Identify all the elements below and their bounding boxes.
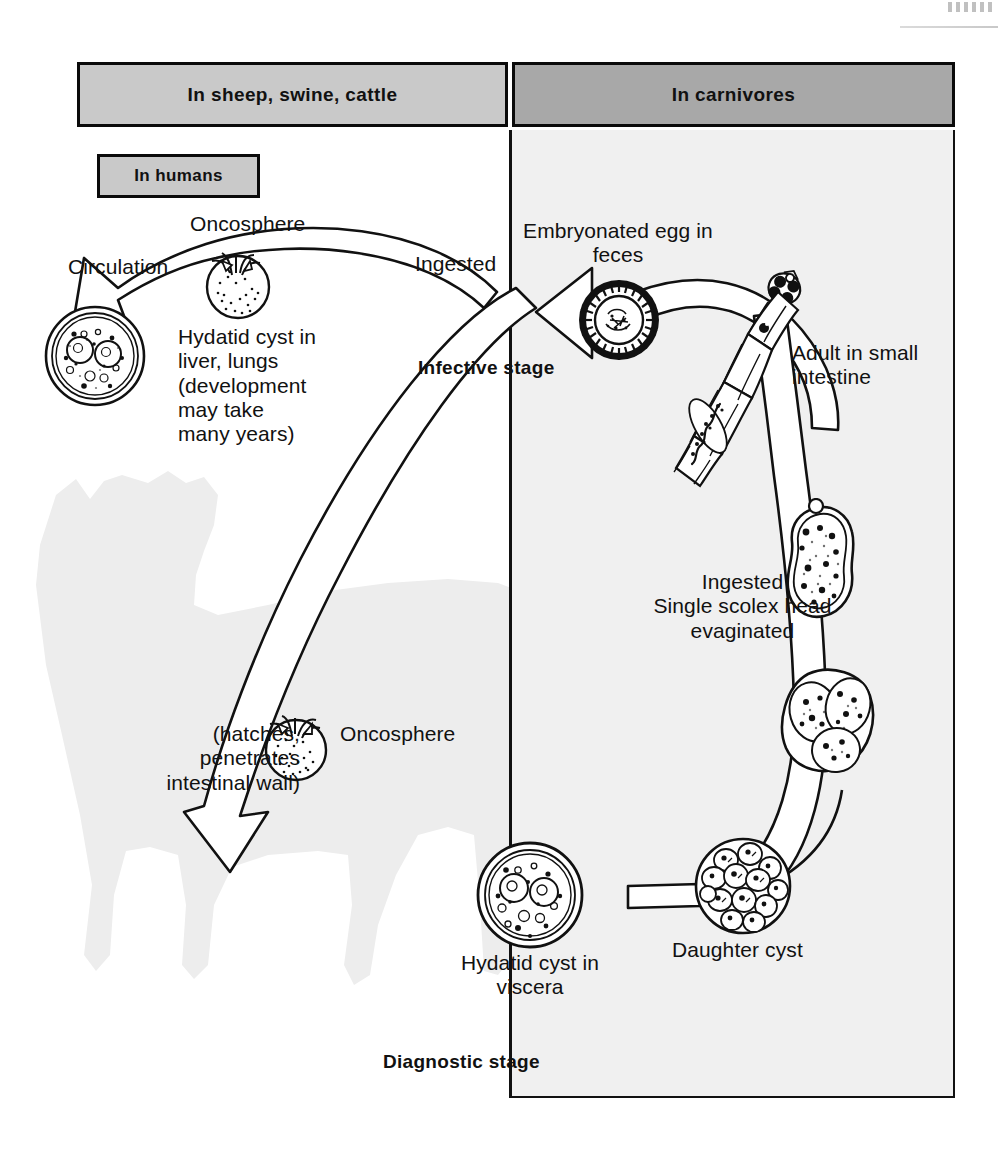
label-daughter-cyst: Daughter cyst — [672, 938, 803, 962]
label-embryonated-egg: Embryonated egg in feces — [523, 219, 713, 268]
hydatid-cyst-viscera-illustration — [472, 836, 588, 954]
label-circulation: Circulation — [68, 255, 168, 279]
header-humans-label: In humans — [134, 166, 223, 186]
figure-canvas: In sheep, swine, cattle In carnivores In… — [0, 0, 998, 1161]
label-hydatid-cyst-viscera: Hydatid cyst in viscera — [440, 951, 620, 1000]
protoscolex-capsule-2-illustration — [778, 662, 884, 780]
header-left-label: In sheep, swine, cattle — [188, 84, 398, 106]
hydatid-cyst-liver-illustration — [40, 300, 150, 412]
oncosphere-top-illustration — [200, 243, 276, 323]
label-ingested-scolex: Ingested Single scolex head evaginated — [625, 570, 860, 643]
label-oncosphere-top: Oncosphere — [190, 212, 305, 236]
embryonated-egg-illustration — [574, 274, 664, 366]
header-carnivores: In carnivores — [512, 62, 955, 127]
label-hydatid-cyst-liver: Hydatid cyst in liver, lungs (developmen… — [178, 325, 316, 447]
label-oncosphere-bottom: Oncosphere — [340, 722, 455, 746]
label-diagnostic-stage: Diagnostic stage — [383, 1051, 540, 1073]
header-sheep-swine-cattle: In sheep, swine, cattle — [77, 62, 508, 127]
header-right-label: In carnivores — [672, 84, 795, 106]
label-ingested-top: Ingested — [415, 252, 496, 276]
label-adult-small-intestine: Adult in small intestine — [792, 341, 918, 390]
label-hatches-penetrates: (hatches, penetrates intestinal wall) — [140, 722, 300, 795]
header-humans: In humans — [97, 154, 260, 198]
daughter-cyst-illustration — [690, 832, 796, 940]
label-infective-stage: Infective stage — [418, 357, 555, 379]
